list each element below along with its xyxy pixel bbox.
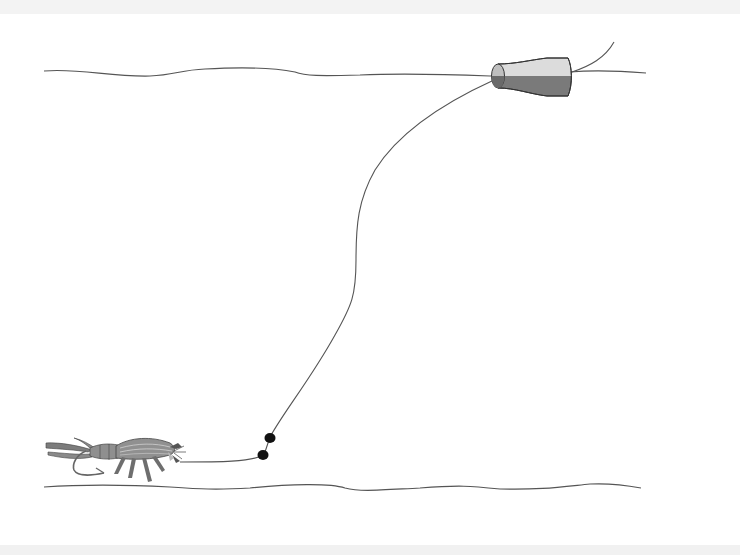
split-shot-lower <box>258 450 269 460</box>
bottom-line <box>44 484 641 491</box>
fishing-line <box>270 80 494 437</box>
rig-illustration <box>0 0 740 555</box>
shrimp-fly <box>46 438 186 482</box>
diagram-canvas <box>0 0 740 555</box>
split-shot-upper <box>265 433 276 443</box>
water-surface-line-right <box>570 71 646 73</box>
line-to-rod <box>572 42 614 72</box>
water-surface-line <box>44 68 500 76</box>
float <box>492 58 572 96</box>
fishing-line-lower <box>180 437 270 462</box>
